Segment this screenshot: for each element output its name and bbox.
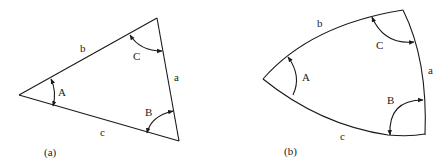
spherical-triangle: b a c A C B (b)	[263, 10, 433, 158]
angle-b-arc	[390, 100, 423, 135]
angle-c-arc	[130, 35, 162, 51]
side-c-curve	[263, 79, 425, 136]
angle-c-label: C	[376, 39, 383, 51]
side-a-label: a	[428, 64, 433, 76]
angle-a-label: A	[58, 86, 66, 98]
plane-triangle: b a c A C B (a)	[19, 18, 179, 159]
side-b-label: b	[317, 17, 323, 29]
angle-a-arc	[288, 57, 297, 95]
angle-b-label: B	[387, 94, 394, 106]
angle-b-label: B	[145, 106, 152, 118]
triangle-diagram: b a c A C B (a) b a c A C B (b)	[0, 0, 443, 161]
side-b-label: b	[80, 42, 86, 54]
side-c-line	[19, 95, 179, 141]
side-c-label: c	[100, 126, 105, 138]
angle-c-label: C	[133, 50, 140, 62]
caption-a: (a)	[44, 146, 57, 159]
side-a-label: a	[174, 71, 179, 83]
angle-a-arc	[51, 79, 55, 106]
side-a-curve	[403, 10, 425, 135]
side-c-label: c	[340, 130, 345, 142]
caption-b: (b)	[284, 145, 297, 158]
angle-a-label: A	[302, 71, 310, 83]
